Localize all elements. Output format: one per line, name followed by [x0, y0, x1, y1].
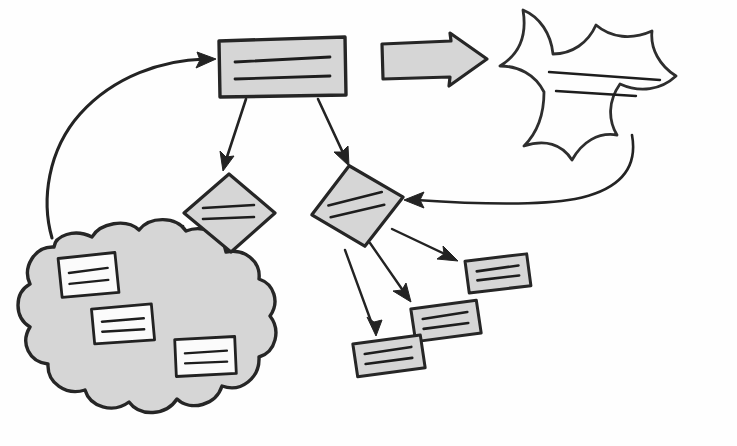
diagram-canvas	[0, 0, 737, 446]
connector-box-to-diamond-right	[318, 99, 349, 166]
cloud-note-3[interactable]	[175, 336, 237, 376]
process-rectangle[interactable]	[219, 37, 346, 97]
connector-box-to-diamond-left	[220, 99, 246, 171]
connector-diamond-right-to-loose-note-bottom	[345, 250, 382, 336]
block-arrow-right[interactable]	[382, 33, 487, 86]
loose-note-top[interactable]	[465, 254, 531, 293]
decision-diamond-right[interactable]	[304, 157, 411, 255]
loose-note-bottom[interactable]	[353, 335, 426, 377]
cloud-note-2[interactable]	[91, 304, 154, 344]
flowchart-sketch	[0, 0, 737, 446]
connector-starburst-to-diamond-right	[404, 135, 633, 208]
cloud-note-1[interactable]	[58, 252, 119, 297]
connector-diamond-right-to-loose-note-top	[392, 229, 458, 261]
connector-diamond-right-to-loose-note-middle	[370, 243, 411, 302]
starburst-callout[interactable]	[500, 10, 676, 160]
